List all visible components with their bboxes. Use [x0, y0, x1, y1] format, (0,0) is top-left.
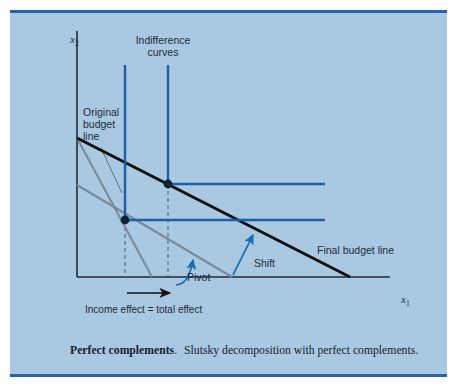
optimum-dot-final: [164, 180, 173, 189]
original-budget-line-label: Original budget line: [83, 107, 119, 142]
indifference-curve-1: [125, 65, 325, 220]
indifference-curve-2: [168, 65, 325, 184]
optimum-dot-original: [121, 216, 130, 225]
caption-title-punctuation: .: [174, 344, 177, 357]
caption-body: Slutsky decomposition with perfect compl…: [184, 344, 418, 357]
figure-panel: Indifference curves Original budget line…: [10, 10, 447, 377]
final-budget-line-label: Final budget line: [317, 245, 394, 257]
dropline-group: [125, 184, 168, 277]
x-axis-label: x1: [401, 293, 410, 308]
income-effect-label: Income effect = total effect: [85, 304, 202, 315]
indifference-curves-label: Indifference curves: [118, 35, 208, 59]
figure-caption: Perfect complements.Slutsky decompositio…: [70, 343, 430, 360]
pivot-label: Pivot: [187, 272, 210, 284]
shift-label: Shift: [254, 258, 275, 270]
x-axis-label-subscript: 1: [406, 299, 410, 308]
y-axis-label: x2: [70, 33, 79, 48]
final-budget-line: [77, 138, 350, 277]
slutsky-perfect-complements-plot: [10, 13, 447, 380]
y-axis-label-subscript: 2: [75, 39, 79, 48]
shift-arrow: [233, 235, 253, 275]
caption-title: Perfect complements: [70, 344, 174, 357]
pivoted-budget-line: [77, 185, 232, 277]
figure-root: Indifference curves Original budget line…: [0, 0, 457, 387]
